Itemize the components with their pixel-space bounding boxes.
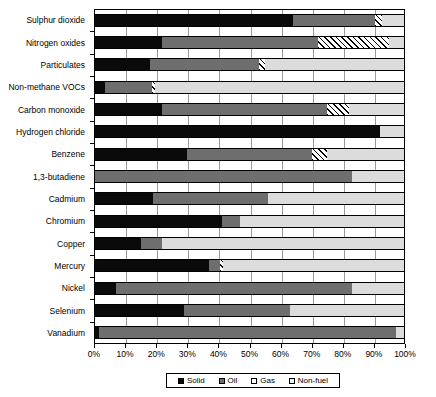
- bar-segment-non-fuel: [268, 192, 405, 205]
- bar-segment-non-fuel: [223, 259, 405, 272]
- x-axis-tick: [218, 344, 219, 348]
- bar-segment-solid: [94, 304, 184, 317]
- y-axis-label: Particulates: [41, 60, 85, 70]
- x-axis-tick-labels: 0%10%20%30%40%50%60%70%80%90%100%: [0, 349, 436, 363]
- y-axis-label: Carbon monoxide: [18, 105, 85, 115]
- bar-segment-non-fuel: [265, 58, 405, 71]
- y-axis-label: Mercury: [54, 261, 85, 271]
- bar-row: [94, 125, 405, 138]
- legend-item: Non-fuel: [289, 376, 328, 385]
- y-axis-label: Nickel: [62, 283, 85, 293]
- bar-segment-solid: [94, 125, 380, 138]
- x-axis-tick: [187, 344, 188, 348]
- bar-segment-non-fuel: [155, 81, 405, 94]
- bar-segment-oil: [209, 259, 220, 272]
- x-axis-tick: [94, 344, 95, 348]
- y-axis-label: Hydrogen chloride: [16, 127, 85, 137]
- bar-segment-non-fuel: [290, 304, 405, 317]
- stacked-bar-chart: Sulphur dioxideNitrogen oxidesParticulat…: [0, 0, 436, 397]
- y-axis-label: Cadmium: [49, 194, 85, 204]
- legend-label: Non-fuel: [298, 376, 328, 385]
- bar-segment-oil: [99, 326, 396, 339]
- legend-item: Oil: [219, 376, 238, 385]
- y-axis-label: Sulphur dioxide: [26, 15, 85, 25]
- bar-segment-non-fuel: [240, 215, 405, 228]
- bar-segment-solid: [94, 36, 162, 49]
- x-axis-tick-label: 50%: [233, 349, 267, 360]
- bar-segment-oil: [184, 304, 290, 317]
- bar-row: [94, 282, 405, 295]
- legend-label: Gas: [260, 376, 275, 385]
- bar-segment-non-fuel: [382, 14, 405, 27]
- bar-row: [94, 215, 405, 228]
- legend-swatch-icon: [251, 378, 257, 384]
- bar-segment-solid: [94, 215, 222, 228]
- bar-row: [94, 192, 405, 205]
- x-axis-tick: [312, 344, 313, 348]
- bar-segment-non-fuel: [352, 170, 405, 183]
- bar-segment-solid: [94, 58, 150, 71]
- bar-segment-oil: [162, 36, 318, 49]
- x-axis-tick-label: 70%: [295, 349, 329, 360]
- x-axis-tick: [281, 344, 282, 348]
- y-axis-label: Chromium: [46, 216, 85, 226]
- bar-segment-gas: [312, 148, 328, 161]
- bar-row: [94, 14, 405, 27]
- x-axis-tick: [125, 344, 126, 348]
- y-axis-label: Non-methane VOCs: [8, 82, 85, 92]
- bar-row: [94, 170, 405, 183]
- bar-row: [94, 148, 405, 161]
- legend-swatch-icon: [178, 378, 184, 384]
- bar-segment-non-fuel: [396, 326, 405, 339]
- bar-segment-solid: [94, 148, 187, 161]
- legend-swatch-icon: [219, 378, 225, 384]
- bar-segment-oil: [94, 170, 352, 183]
- y-axis-label: Selenium: [50, 306, 85, 316]
- legend-label: Solid: [187, 376, 205, 385]
- bar-segment-oil: [153, 192, 268, 205]
- legend-label: Oil: [228, 376, 238, 385]
- bar-segment-oil: [141, 237, 163, 250]
- bar-segment-solid: [94, 192, 153, 205]
- x-axis-tick-label: 90%: [357, 349, 391, 360]
- bar-segment-oil: [116, 282, 352, 295]
- y-axis-label: Nitrogen oxides: [26, 38, 85, 48]
- bar-segment-solid: [94, 282, 116, 295]
- bar-segment-oil: [162, 103, 327, 116]
- bar-segment-gas: [327, 103, 349, 116]
- bar-row: [94, 58, 405, 71]
- bar-segment-non-fuel: [380, 125, 405, 138]
- y-axis-label: Vanadium: [47, 328, 85, 338]
- bar-segment-solid: [94, 14, 293, 27]
- bar-row: [94, 326, 405, 339]
- bar-segment-oil: [293, 14, 375, 27]
- bar-segment-non-fuel: [389, 36, 405, 49]
- bar-rows: [94, 9, 405, 344]
- bar-segment-solid: [94, 237, 141, 250]
- bar-segment-oil: [105, 81, 152, 94]
- x-axis-tick-label: 80%: [326, 349, 360, 360]
- y-axis-category-labels: Sulphur dioxideNitrogen oxidesParticulat…: [0, 9, 92, 344]
- bar-segment-non-fuel: [352, 282, 405, 295]
- y-axis-label: 1,3-butadiene: [33, 172, 85, 182]
- x-axis-tick-label: 40%: [201, 349, 235, 360]
- bar-segment-oil: [222, 215, 241, 228]
- bar-segment-non-fuel: [327, 148, 405, 161]
- x-axis-tick: [343, 344, 344, 348]
- y-axis-label: Benzene: [51, 149, 85, 159]
- bar-row: [94, 81, 405, 94]
- x-axis-tick: [250, 344, 251, 348]
- x-axis-tick-label: 10%: [108, 349, 142, 360]
- x-axis-tick: [156, 344, 157, 348]
- bar-segment-solid: [94, 103, 162, 116]
- bar-row: [94, 237, 405, 250]
- legend-item: Solid: [178, 376, 205, 385]
- x-axis-tick-label: 60%: [264, 349, 298, 360]
- legend-swatch-icon: [289, 378, 295, 384]
- bar-row: [94, 36, 405, 49]
- x-axis-tick-label: 30%: [170, 349, 204, 360]
- x-axis-tick-label: 0%: [77, 349, 111, 360]
- bar-segment-solid: [94, 81, 105, 94]
- bar-segment-oil: [187, 148, 311, 161]
- x-axis-tick: [405, 344, 406, 348]
